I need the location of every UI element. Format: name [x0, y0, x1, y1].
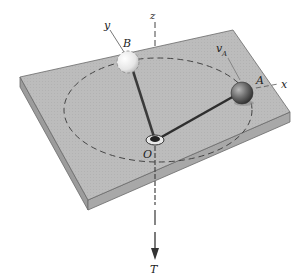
tension-label: T [150, 263, 159, 276]
ball-b [117, 51, 139, 73]
hole-o [150, 136, 160, 142]
y-axis-line [110, 30, 124, 52]
ball-b-label: B [122, 37, 131, 50]
ball-a-label: A [255, 74, 264, 87]
velocity-a-subscript: A [221, 50, 227, 58]
diagram-canvas: z y B x A v A O T [0, 0, 307, 279]
origin-label: O [143, 148, 152, 161]
z-axis-label: z [149, 10, 156, 21]
y-axis-label: y [103, 19, 111, 32]
tension-arrow-head [151, 248, 159, 260]
x-axis-label: x [281, 78, 288, 91]
ball-a [231, 82, 253, 104]
